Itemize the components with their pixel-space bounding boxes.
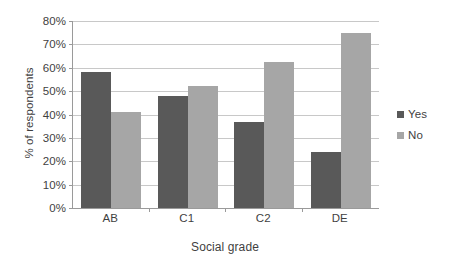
legend-label: No — [408, 129, 423, 141]
bar-c1-yes — [158, 96, 188, 208]
x-axis-tick-c1: C1 — [149, 212, 226, 224]
bar-de-yes — [311, 152, 341, 208]
x-axis-tick-c2: C2 — [225, 212, 302, 224]
y-axis-tick: 20% — [43, 155, 66, 167]
y-axis-tick: 80% — [43, 15, 66, 27]
y-axis-tick: 10% — [43, 179, 66, 191]
x-axis-tick-ab: AB — [72, 212, 149, 224]
bars-layer — [73, 21, 379, 208]
y-axis-tick: 70% — [43, 38, 66, 50]
y-axis-tick: 40% — [43, 109, 66, 121]
bar-chart: % of respondents 80%70%60%50%40%30%20%10… — [0, 0, 449, 267]
y-axis-tick-labels: 80%70%60%50%40%30%20%10%0% — [26, 15, 70, 209]
y-axis-tick: 30% — [43, 132, 66, 144]
bar-group — [150, 21, 227, 208]
legend-item-no[interactable]: No — [397, 129, 427, 141]
y-axis-tick: 60% — [43, 62, 66, 74]
legend-item-yes[interactable]: Yes — [397, 108, 427, 120]
x-axis-tick-labels: ABC1C2DE — [72, 212, 378, 224]
bar-group — [226, 21, 303, 208]
bar-group — [73, 21, 150, 208]
bar-c1-no — [188, 86, 218, 208]
y-axis-tick: 0% — [49, 202, 66, 214]
x-axis-tick-de: DE — [302, 212, 379, 224]
plot-area — [72, 21, 379, 209]
bar-c2-no — [264, 62, 294, 208]
bar-de-no — [341, 33, 371, 208]
bar-group — [303, 21, 380, 208]
bar-c2-yes — [234, 122, 264, 208]
bar-ab-yes — [81, 72, 111, 208]
chart-legend: YesNo — [397, 108, 427, 141]
legend-label: Yes — [408, 108, 427, 120]
x-axis-title: Social grade — [72, 240, 378, 254]
legend-swatch-icon — [397, 132, 404, 139]
bar-ab-no — [111, 112, 141, 208]
legend-swatch-icon — [397, 111, 404, 118]
y-axis-tick: 50% — [43, 85, 66, 97]
